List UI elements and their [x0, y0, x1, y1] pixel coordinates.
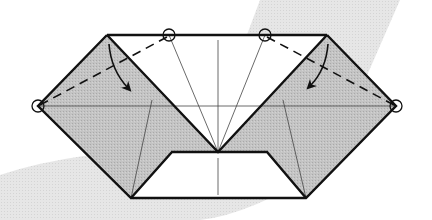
- origami-diagram: Origami fold step: fold top corners down…: [0, 0, 432, 220]
- diagram-canvas: [0, 0, 432, 220]
